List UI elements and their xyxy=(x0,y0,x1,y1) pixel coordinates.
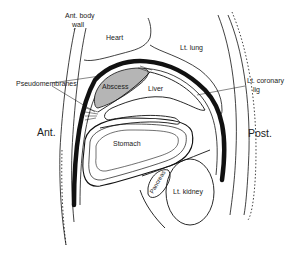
label-abscess: Abscess xyxy=(102,83,129,90)
label-ant-body-wall-1: Ant. body xyxy=(65,12,95,20)
label-ant-body-wall-2: wall xyxy=(71,21,85,28)
label-lt-coronary-lig-1: Lt. coronary xyxy=(247,77,284,85)
label-lt-lung: Lt. lung xyxy=(180,44,203,52)
label-post: Post. xyxy=(248,127,272,139)
label-stomach: Stomach xyxy=(113,140,141,147)
label-lt-kidney: Lt. kidney xyxy=(173,188,203,196)
label-ant: Ant. xyxy=(37,126,56,138)
anatomical-diagram: Ant. body wall Heart Lt. lung Pseudomemb… xyxy=(0,0,298,255)
label-heart: Heart xyxy=(106,34,123,41)
posterior-body-wall xyxy=(218,12,256,220)
label-pseudomembranes: Pseudomembranes xyxy=(16,80,77,87)
label-lt-coronary-lig-2: lig xyxy=(253,86,260,94)
anterior-body-wall xyxy=(60,28,86,245)
stomach-wall xyxy=(89,124,187,180)
label-liver: Liver xyxy=(148,85,164,92)
stomach-lumen xyxy=(96,130,179,171)
